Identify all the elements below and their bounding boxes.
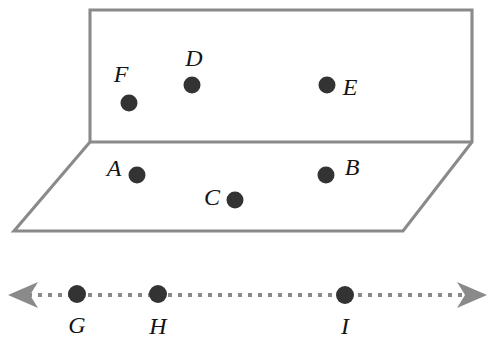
point-dot-g bbox=[68, 285, 86, 303]
diagram-canvas: F D E A B C G H I bbox=[0, 0, 502, 348]
point-label-g: G bbox=[68, 312, 85, 338]
point-dot-h bbox=[149, 285, 167, 303]
geometry-figure: F D E A B C G H I bbox=[0, 0, 502, 348]
plane-lower-face bbox=[14, 142, 472, 231]
point-dot-d bbox=[184, 77, 201, 94]
point-label-b: B bbox=[345, 154, 360, 180]
left-arrowhead-icon bbox=[8, 282, 38, 308]
point-label-a: A bbox=[105, 155, 122, 181]
point-label-f: F bbox=[113, 61, 129, 87]
point-dot-c bbox=[227, 192, 244, 209]
point-label-e: E bbox=[342, 74, 358, 100]
point-dot-i bbox=[336, 286, 354, 304]
point-dot-a bbox=[129, 167, 146, 184]
point-label-d: D bbox=[184, 45, 202, 71]
point-label-i: I bbox=[340, 313, 350, 339]
point-label-h: H bbox=[148, 313, 168, 339]
point-dot-b bbox=[318, 167, 335, 184]
point-dot-e bbox=[319, 77, 336, 94]
point-label-c: C bbox=[204, 184, 221, 210]
point-dot-f bbox=[121, 95, 138, 112]
plane-upper-face bbox=[90, 10, 472, 142]
